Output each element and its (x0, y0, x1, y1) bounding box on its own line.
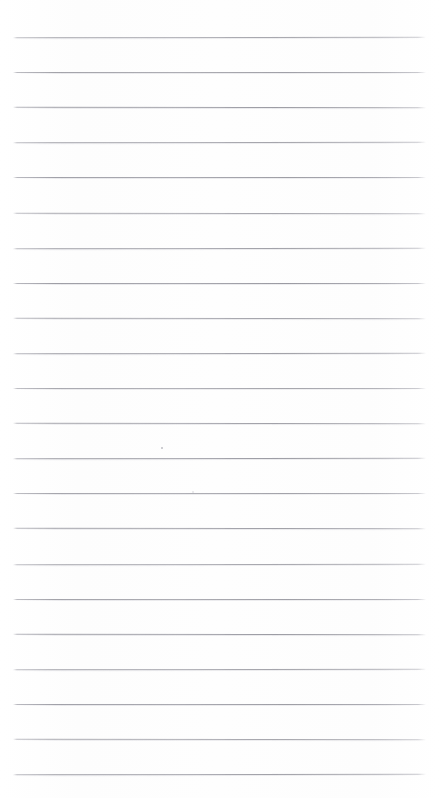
writing-area[interactable] (13, 0, 426, 798)
ruled-paper-page (0, 0, 439, 798)
